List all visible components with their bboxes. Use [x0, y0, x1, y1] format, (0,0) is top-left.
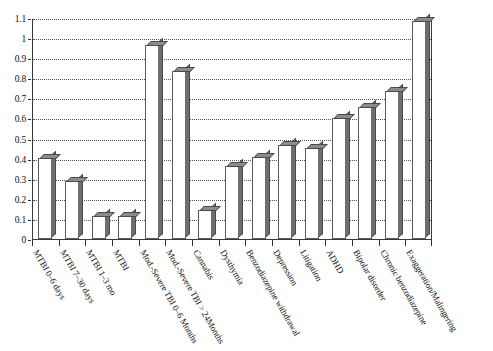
bar-side-face	[78, 174, 83, 238]
y-tick-label: 1	[21, 34, 26, 44]
bar	[358, 19, 372, 239]
bar-side-face	[265, 149, 270, 238]
bar-side-face	[185, 64, 190, 238]
bar-top-face	[39, 154, 61, 159]
y-tick-label: 0.7	[15, 94, 26, 104]
bar-body	[358, 107, 372, 239]
bar	[385, 19, 399, 239]
bar-top-face	[146, 41, 168, 46]
bar-body	[38, 158, 52, 239]
bar-top-face	[173, 67, 195, 72]
bar	[305, 19, 319, 239]
bar	[38, 19, 52, 239]
y-tick-mark	[28, 200, 31, 201]
bar-top-face	[93, 212, 115, 217]
bar-side-face	[291, 137, 296, 238]
x-tick-label: MTBI	[111, 248, 131, 272]
y-tick-mark	[28, 220, 31, 221]
bar-top-face	[306, 144, 328, 149]
bar-top-face	[413, 17, 435, 22]
y-tick-mark	[28, 79, 31, 80]
bar-body	[172, 71, 186, 239]
bar	[225, 19, 239, 239]
bar-side-face	[318, 140, 323, 238]
bar-body	[252, 157, 266, 239]
x-tick-label: Exaggeration/Malingering	[405, 248, 460, 333]
bar	[145, 19, 159, 239]
bar-body	[198, 210, 212, 239]
bar	[252, 19, 266, 239]
y-tick-label: 0.8	[15, 74, 26, 84]
bar-top-face	[333, 114, 355, 119]
bar-body	[305, 148, 319, 239]
bar-top-face	[279, 141, 301, 146]
bar-top-face	[119, 212, 141, 217]
bar-body	[118, 216, 132, 239]
bar-top-face	[226, 162, 248, 167]
x-axis-labels: MTBI 0–6 daysMTBI 7–30 daysMTBI 1–3 moMT…	[0, 240, 493, 351]
bar-side-face	[51, 150, 56, 238]
y-tick-mark	[28, 180, 31, 181]
y-tick-label: 0.9	[15, 54, 26, 64]
y-tick-mark	[28, 99, 31, 100]
bar	[198, 19, 212, 239]
y-tick-label: 0.5	[15, 135, 26, 145]
bar	[278, 19, 292, 239]
bar-side-face	[398, 84, 403, 238]
chart-figure: 00.10.20.30.40.50.60.70.80.911.1 MTBI 0–…	[0, 0, 493, 351]
x-tick-label: Depression	[271, 248, 299, 287]
y-tick-mark	[28, 140, 31, 141]
bar-body	[332, 118, 346, 239]
y-tick-label: 1.1	[15, 14, 26, 24]
bar	[92, 19, 106, 239]
x-tick-label: Benzodiazepine withdrawal	[245, 248, 303, 338]
bar	[332, 19, 346, 239]
x-tick-label: Cannabis	[191, 248, 216, 281]
bar	[65, 19, 79, 239]
bar-side-face	[371, 100, 376, 238]
bar-side-face	[425, 14, 430, 238]
y-tick-mark	[28, 119, 31, 120]
y-tick-label: 0.1	[15, 215, 26, 225]
bar-side-face	[345, 111, 350, 238]
bar-side-face	[238, 158, 243, 238]
bar-body	[92, 216, 106, 239]
y-tick-label: 0.4	[15, 155, 26, 165]
plot-area	[32, 19, 432, 240]
bar-top-face	[359, 103, 381, 108]
bar-body	[225, 166, 239, 239]
y-axis: 00.10.20.30.40.50.60.70.80.911.1	[0, 19, 32, 240]
bar-body	[278, 145, 292, 239]
y-tick-label: 0.2	[15, 195, 26, 205]
y-tick-mark	[28, 59, 31, 60]
x-tick-label: Chronic benzodiazepine	[378, 248, 429, 327]
bar	[172, 19, 186, 239]
y-tick-mark	[28, 19, 31, 20]
x-tick-label: Litigation	[298, 248, 324, 283]
bar-top-face	[386, 87, 408, 92]
bar-top-face	[199, 206, 221, 211]
bar-body	[145, 45, 159, 239]
bar-series	[33, 19, 431, 239]
y-tick-mark	[28, 39, 31, 40]
bar-side-face	[158, 38, 163, 238]
y-tick-label: 0.6	[15, 114, 26, 124]
y-tick-mark	[28, 160, 31, 161]
bar	[412, 19, 426, 239]
bar	[118, 19, 132, 239]
bar-top-face	[253, 153, 275, 158]
bar-top-face	[66, 177, 88, 182]
bar-body	[65, 181, 79, 239]
x-tick-label: Dysthymia	[218, 248, 246, 286]
x-tick-label: ADHD	[325, 248, 346, 275]
y-tick-label: 0.3	[15, 175, 26, 185]
bar-body	[412, 21, 426, 239]
bar-body	[385, 91, 399, 239]
